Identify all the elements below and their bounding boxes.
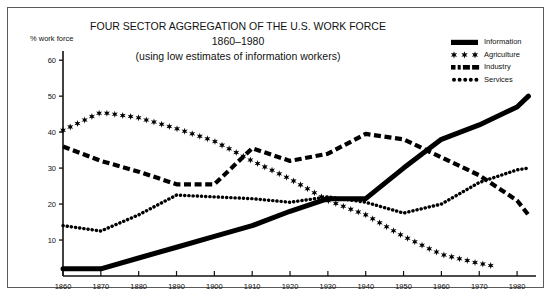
agriculture-star-marker xyxy=(391,227,397,234)
agriculture-star-marker xyxy=(311,189,317,196)
legend-dash-icon xyxy=(472,65,479,70)
x-tick-label: 1870 xyxy=(92,282,109,289)
legend-star-icon xyxy=(461,51,467,58)
agriculture-star-marker xyxy=(212,138,218,145)
agriculture-star-marker xyxy=(464,257,470,264)
agriculture-star-marker xyxy=(283,174,289,181)
agriculture-star-marker xyxy=(128,113,134,120)
legend-label: Industry xyxy=(484,62,511,71)
series-information xyxy=(63,96,528,269)
agriculture-star-marker xyxy=(159,121,165,128)
legend-dot-icon xyxy=(463,78,467,82)
chart-canvas: FOUR SECTOR AGGREGATION OF THE U.S. WORK… xyxy=(8,8,545,289)
x-tick-label: 1970 xyxy=(471,282,488,289)
x-axis: 1860187018801890190019101920193019401950… xyxy=(55,271,536,289)
figure-frame: FOUR SECTOR AGGREGATION OF THE U.S. WORK… xyxy=(7,7,544,288)
information-line xyxy=(63,96,528,269)
y-axis-label: % work force xyxy=(30,34,73,43)
x-tick-label: 1950 xyxy=(395,282,412,289)
x-tick-label: 1910 xyxy=(244,282,261,289)
chart-title-line-1: FOUR SECTOR AGGREGATION OF THE U.S. WORK… xyxy=(90,20,386,32)
agriculture-star-marker xyxy=(297,181,303,188)
series-industry xyxy=(63,134,528,215)
x-tick-label: 1880 xyxy=(130,282,147,289)
y-tick-label: 30 xyxy=(48,164,56,173)
x-tick-label: 1890 xyxy=(168,282,185,289)
x-tick-label: 1930 xyxy=(320,282,337,289)
agriculture-star-marker xyxy=(67,123,73,130)
agriculture-star-marker xyxy=(166,123,172,130)
agriculture-star-marker xyxy=(82,117,88,124)
agriculture-star-marker xyxy=(441,252,447,259)
agriculture-star-marker xyxy=(262,163,268,170)
y-tick-label: 50 xyxy=(48,92,56,101)
agriculture-star-marker xyxy=(426,245,432,252)
agriculture-star-marker xyxy=(370,215,376,222)
y-axis: 102030405060 xyxy=(48,51,63,276)
agriculture-star-marker xyxy=(96,110,102,117)
agriculture-star-marker xyxy=(456,255,462,262)
legend-label: Services xyxy=(484,75,513,84)
agriculture-star-marker xyxy=(226,145,232,152)
series-services xyxy=(63,168,528,231)
y-tick-label: 60 xyxy=(48,56,56,65)
legend-item-services[interactable]: Services xyxy=(452,75,513,84)
agriculture-star-marker xyxy=(276,170,282,177)
agriculture-star-marker xyxy=(174,125,180,132)
legend-dash-icon xyxy=(458,65,461,70)
legend-swatch-solid xyxy=(451,40,478,45)
agriculture-star-marker xyxy=(189,130,195,137)
agriculture-star-marker xyxy=(120,112,126,119)
work-force-line-chart: FOUR SECTOR AGGREGATION OF THE U.S. WORK… xyxy=(8,8,545,289)
agriculture-star-marker xyxy=(355,209,361,216)
series-agriculture xyxy=(60,110,494,269)
legend-item-industry[interactable]: Industry xyxy=(451,62,511,71)
agriculture-star-marker xyxy=(74,120,80,127)
legend-item-information[interactable]: Information xyxy=(451,37,522,46)
data-series-group xyxy=(60,96,528,269)
agriculture-star-marker xyxy=(397,231,403,238)
x-tick-label: 1940 xyxy=(357,282,374,289)
agriculture-star-marker xyxy=(348,206,354,213)
agriculture-star-marker xyxy=(488,262,494,269)
legend-dot-icon xyxy=(452,78,456,82)
agriculture-star-marker xyxy=(255,160,261,167)
agriculture-star-marker xyxy=(151,119,157,126)
agriculture-star-marker xyxy=(412,238,418,245)
legend-dot-icon xyxy=(469,78,473,82)
agriculture-star-marker xyxy=(233,149,239,156)
agriculture-star-marker xyxy=(363,211,369,218)
legend-label: Agriculture xyxy=(484,50,520,59)
legend-dot-icon xyxy=(458,78,462,82)
industry-line xyxy=(63,134,528,215)
x-tick-label: 1860 xyxy=(55,282,72,289)
agriculture-star-marker xyxy=(405,235,411,242)
y-tick-label: 10 xyxy=(48,236,56,245)
x-tick-label: 1980 xyxy=(509,282,526,289)
agriculture-star-marker xyxy=(136,114,142,121)
agriculture-star-marker xyxy=(104,110,110,117)
agriculture-star-marker xyxy=(269,167,275,174)
y-tick-label: 20 xyxy=(48,200,56,209)
agriculture-star-marker xyxy=(419,242,425,249)
chart-legend: InformationAgricultureIndustryServices xyxy=(451,37,522,84)
y-tick-label: 40 xyxy=(48,128,56,137)
legend-star-icon xyxy=(472,51,478,58)
agriculture-star-marker xyxy=(340,203,346,210)
agriculture-star-marker xyxy=(472,259,478,266)
agriculture-star-marker xyxy=(449,253,455,260)
agriculture-star-marker xyxy=(197,133,203,140)
agriculture-star-marker xyxy=(384,223,390,230)
agriculture-star-marker xyxy=(219,142,225,149)
legend-item-agriculture[interactable]: Agriculture xyxy=(451,50,520,59)
chart-title-line-2: 1860–1980 xyxy=(212,35,265,47)
agriculture-star-marker xyxy=(480,261,486,268)
legend-label: Information xyxy=(484,37,522,46)
agriculture-star-marker xyxy=(112,111,118,118)
agriculture-star-marker xyxy=(247,156,253,163)
x-tick-label: 1900 xyxy=(206,282,223,289)
agriculture-star-marker xyxy=(204,135,210,142)
agriculture-star-marker xyxy=(377,219,383,226)
agriculture-star-marker xyxy=(304,185,310,192)
agriculture-star-marker xyxy=(433,249,439,256)
